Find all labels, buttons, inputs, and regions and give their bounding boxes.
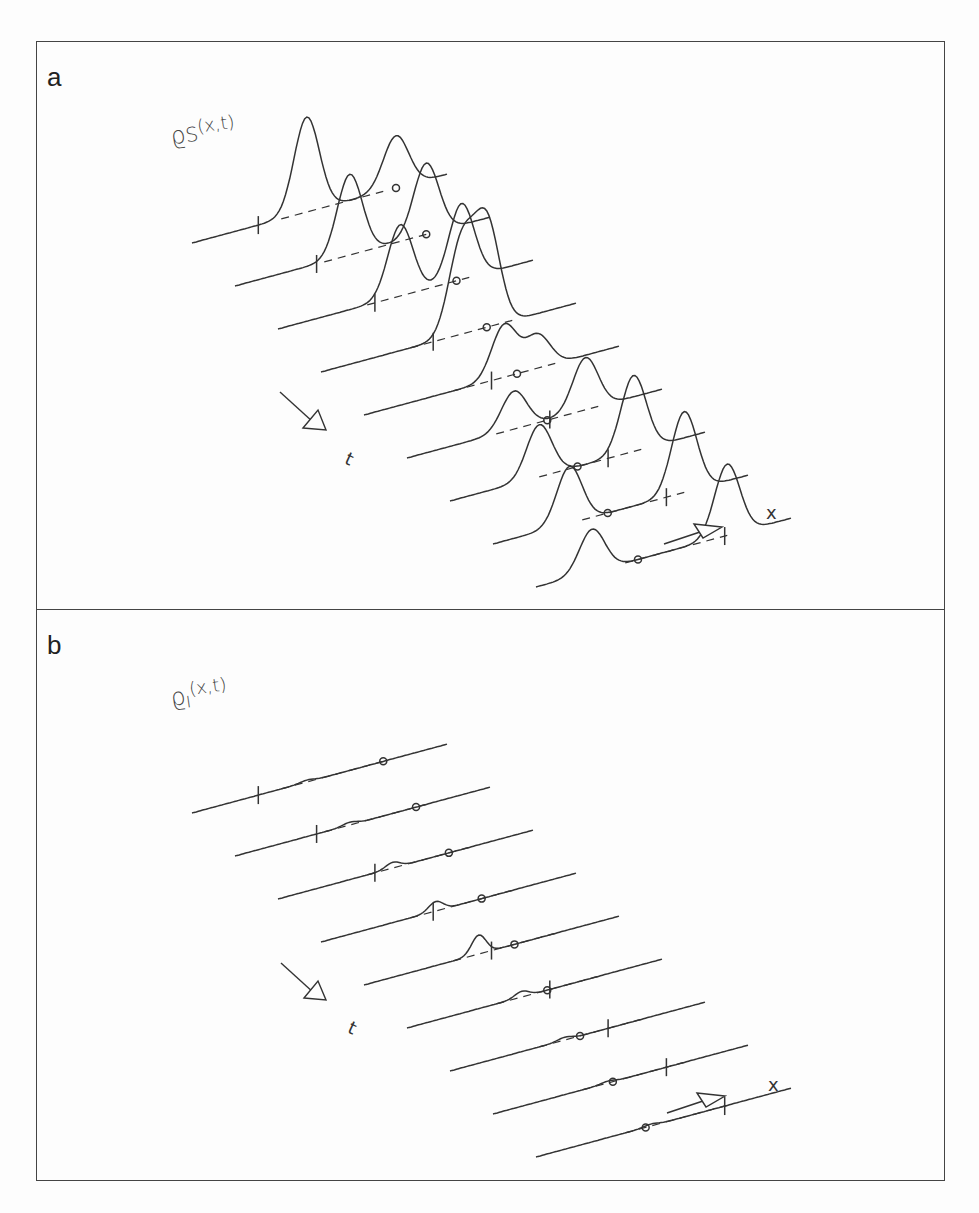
slice-curve bbox=[235, 787, 490, 856]
panel-a-waterfall bbox=[192, 117, 791, 587]
slice-curve bbox=[192, 744, 447, 813]
dashed-guide bbox=[281, 191, 383, 219]
panel-b-space-arrow-icon bbox=[667, 1093, 725, 1113]
dashed-guide bbox=[496, 406, 598, 434]
circle-marker bbox=[393, 184, 400, 191]
waterfall-plots bbox=[0, 0, 979, 1213]
slice-curve bbox=[321, 208, 576, 372]
panel-a-space-arrow-icon bbox=[664, 524, 722, 544]
circle-marker bbox=[453, 277, 460, 284]
circle-marker bbox=[514, 370, 521, 377]
panel-b-time-arrow-icon bbox=[281, 963, 326, 1000]
slice-curve bbox=[536, 1088, 791, 1157]
circle-marker bbox=[483, 324, 490, 331]
slice-curve bbox=[493, 412, 748, 544]
dashed-guide bbox=[367, 277, 469, 305]
slice-curve bbox=[192, 117, 447, 243]
slice-curve bbox=[364, 323, 619, 415]
slice-curve bbox=[407, 358, 662, 458]
dashed-guide bbox=[453, 363, 555, 391]
panel-a-time-arrow-icon bbox=[280, 392, 326, 430]
slice-curve bbox=[321, 873, 576, 942]
slice-curve bbox=[536, 464, 791, 587]
slice-curve bbox=[407, 959, 662, 1028]
slice-curve bbox=[450, 376, 705, 502]
